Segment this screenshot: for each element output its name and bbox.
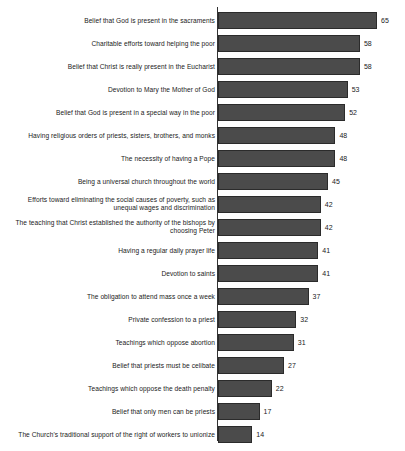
bar-and-value: 53 xyxy=(218,81,359,98)
bar-and-value: 65 xyxy=(218,12,389,29)
bar xyxy=(218,357,284,374)
category-label: Belief that only men can be priests xyxy=(10,407,215,416)
bar xyxy=(218,311,296,328)
bar-and-value: 48 xyxy=(218,127,347,144)
bar-and-value: 48 xyxy=(218,150,347,167)
bar-and-value: 58 xyxy=(218,35,372,52)
category-label: Devotion to saints xyxy=(10,269,215,278)
bar-value-label: 48 xyxy=(339,150,347,167)
bar-value-label: 41 xyxy=(322,242,330,259)
bar-and-value: 32 xyxy=(218,311,308,328)
bar-value-label: 41 xyxy=(322,265,330,282)
bar-row: The teaching that Christ established the… xyxy=(0,216,405,239)
bar-value-label: 48 xyxy=(339,127,347,144)
category-label: The teaching that Christ established the… xyxy=(10,219,215,236)
bar-row: Belief that priests must be celibate27 xyxy=(0,354,405,377)
bar-and-value: 14 xyxy=(218,426,264,443)
bar-value-label: 58 xyxy=(364,58,372,75)
category-label: The Church's traditional support of the … xyxy=(10,430,215,439)
bar-row: Devotion to Mary the Mother of God53 xyxy=(0,78,405,101)
bar-value-label: 52 xyxy=(349,104,357,121)
bar-row: Teachings which oppose abortion31 xyxy=(0,331,405,354)
category-label: Belief that priests must be celibate xyxy=(10,361,215,370)
bar xyxy=(218,35,360,52)
category-label: Belief that Christ is really present in … xyxy=(10,62,215,71)
bar xyxy=(218,288,309,305)
bar-rows-container: Belief that God is present in the sacram… xyxy=(0,9,405,446)
bar-value-label: 65 xyxy=(381,12,389,29)
category-label: Belief that God is present in the sacram… xyxy=(10,16,215,25)
bar xyxy=(218,173,328,190)
category-label: Efforts toward eliminating the social ca… xyxy=(10,196,215,213)
category-label: Being a universal church throughout the … xyxy=(10,177,215,186)
bar xyxy=(218,196,321,213)
bar-row: Being a universal church throughout the … xyxy=(0,170,405,193)
bar-value-label: 32 xyxy=(300,311,308,328)
bar xyxy=(218,265,318,282)
bar-and-value: 41 xyxy=(218,242,330,259)
bar-row: Belief that God is present in a special … xyxy=(0,101,405,124)
bar-value-label: 27 xyxy=(288,357,296,374)
bar-row: Having religious orders of priests, sist… xyxy=(0,124,405,147)
bar xyxy=(218,380,272,397)
bar xyxy=(218,242,318,259)
bar-and-value: 31 xyxy=(218,334,306,351)
bar-and-value: 41 xyxy=(218,265,330,282)
bar-and-value: 42 xyxy=(218,219,333,236)
bar-row: Having a regular daily prayer life41 xyxy=(0,239,405,262)
bar-row: The obligation to attend mass once a wee… xyxy=(0,285,405,308)
bar-and-value: 22 xyxy=(218,380,284,397)
bar-and-value: 58 xyxy=(218,58,372,75)
category-label: Belief that God is present in a special … xyxy=(10,108,215,117)
bar-and-value: 45 xyxy=(218,173,340,190)
category-label: Private confession to a priest xyxy=(10,315,215,324)
bar-row: Belief that Christ is really present in … xyxy=(0,55,405,78)
bar-and-value: 52 xyxy=(218,104,357,121)
bar-and-value: 42 xyxy=(218,196,333,213)
bar-row: Devotion to saints41 xyxy=(0,262,405,285)
bar-row: The Church's traditional support of the … xyxy=(0,423,405,446)
bar-and-value: 37 xyxy=(218,288,320,305)
bar-value-label: 58 xyxy=(364,35,372,52)
bar-row: Teachings which oppose the death penalty… xyxy=(0,377,405,400)
bar xyxy=(218,104,345,121)
bar-value-label: 45 xyxy=(332,173,340,190)
horizontal-bar-chart: Belief that God is present in the sacram… xyxy=(0,0,405,451)
category-label: Having religious orders of priests, sist… xyxy=(10,131,215,140)
bar xyxy=(218,219,321,236)
category-label: Teachings which oppose the death penalty xyxy=(10,384,215,393)
bar-value-label: 22 xyxy=(276,380,284,397)
category-label: The obligation to attend mass once a wee… xyxy=(10,292,215,301)
bar xyxy=(218,81,348,98)
category-label: Teachings which oppose abortion xyxy=(10,338,215,347)
category-label: Devotion to Mary the Mother of God xyxy=(10,85,215,94)
bar-and-value: 27 xyxy=(218,357,296,374)
bar xyxy=(218,403,260,420)
bar xyxy=(218,334,294,351)
bar-row: Efforts toward eliminating the social ca… xyxy=(0,193,405,216)
bar-value-label: 42 xyxy=(325,196,333,213)
bar xyxy=(218,127,335,144)
bar-row: Belief that God is present in the sacram… xyxy=(0,9,405,32)
category-label: Charitable efforts toward helping the po… xyxy=(10,39,215,48)
bar xyxy=(218,150,335,167)
bar xyxy=(218,58,360,75)
bar-row: Charitable efforts toward helping the po… xyxy=(0,32,405,55)
bar-value-label: 42 xyxy=(325,219,333,236)
bar-row: Belief that only men can be priests17 xyxy=(0,400,405,423)
category-label: Having a regular daily prayer life xyxy=(10,246,215,255)
bar-and-value: 17 xyxy=(218,403,271,420)
bar-value-label: 37 xyxy=(313,288,321,305)
bar-value-label: 31 xyxy=(298,334,306,351)
bar-value-label: 14 xyxy=(256,426,264,443)
bar-row: The necessity of having a Pope48 xyxy=(0,147,405,170)
bar xyxy=(218,12,377,29)
bar-row: Private confession to a priest32 xyxy=(0,308,405,331)
bar-value-label: 53 xyxy=(352,81,360,98)
category-label: The necessity of having a Pope xyxy=(10,154,215,163)
bar-value-label: 17 xyxy=(264,403,272,420)
bar xyxy=(218,426,252,443)
